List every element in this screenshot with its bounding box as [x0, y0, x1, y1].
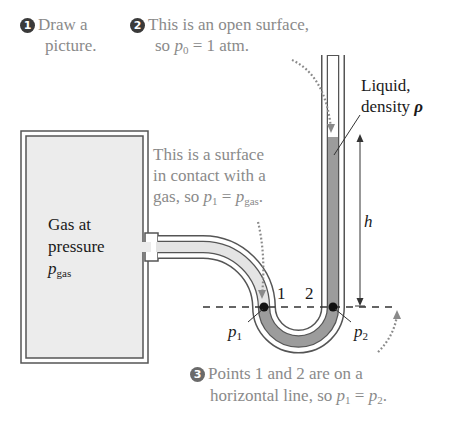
gas-box-line1: Gas at [48, 215, 91, 234]
step2-label: 2This is an open surface, [130, 15, 309, 34]
liquid-density-label: density ρ [361, 97, 423, 116]
manometer-diagram: 1Draw a picture. 2This is an open surfac… [0, 0, 461, 424]
step2-label-line2: so p0 = 1 atm. [155, 36, 249, 55]
step3-label: 3Points 1 and 2 are on a [190, 364, 363, 383]
point-1-label: 1 [277, 284, 286, 303]
step1-badge: 1 [20, 18, 35, 33]
step1-label-line2: picture. [45, 36, 96, 55]
liquid-label: Liquid, [361, 76, 411, 95]
gas-box-pressure-symbol: pgas [48, 259, 71, 278]
p2-label: p2 [354, 322, 368, 341]
point-2-label: 2 [305, 284, 314, 303]
step1-label: 1Draw a [20, 15, 88, 34]
step3-badge: 3 [190, 367, 205, 382]
gas-surface-line1: This is a surface [153, 145, 264, 164]
gas-surface-line2: in contact with a [153, 166, 266, 185]
p1-label: p1 [228, 322, 242, 341]
pointer-arrowhead [393, 310, 401, 319]
gas-box-line2: pressure [48, 237, 105, 256]
gas-surface-line3: gas, so p1 = pgas. [153, 187, 263, 206]
point-1-dot [260, 303, 269, 312]
diagram-graphics [0, 0, 461, 424]
step3-label-line2: horizontal line, so p1 = p2. [210, 386, 387, 405]
height-label: h [364, 212, 373, 231]
step2-badge: 2 [130, 18, 145, 33]
